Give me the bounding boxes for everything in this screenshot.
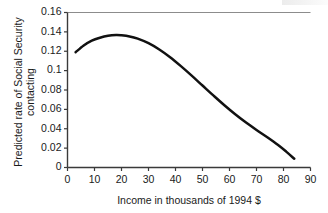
y-tick-label: 0 bbox=[56, 160, 62, 172]
x-tick-label: 70 bbox=[251, 173, 263, 185]
y-tick-label: 0.14 bbox=[41, 25, 62, 37]
y-tick-label: 0.16 bbox=[41, 5, 62, 17]
line-chart: 00.020.040.060.080.10.120.140.16 0102030… bbox=[0, 0, 328, 213]
x-tick-label: 50 bbox=[197, 173, 209, 185]
y-tick-label: 0.02 bbox=[41, 141, 62, 153]
y-axis-title-line1: Predicted rate of Social Security bbox=[12, 17, 24, 167]
y-tick-label: 0.12 bbox=[41, 44, 62, 56]
y-tick-label: 0.04 bbox=[41, 122, 62, 134]
chart-figure: 00.020.040.060.080.10.120.140.16 0102030… bbox=[0, 0, 328, 213]
x-tick-label: 10 bbox=[89, 173, 101, 185]
x-tick-label: 80 bbox=[278, 173, 290, 185]
x-tick-label: 0 bbox=[65, 173, 71, 185]
y-tick-labels: 00.020.040.060.080.10.120.140.16 bbox=[41, 5, 62, 172]
x-tick-label: 20 bbox=[116, 173, 128, 185]
y-tick-label: 0.1 bbox=[47, 63, 62, 75]
x-tick-label: 30 bbox=[143, 173, 155, 185]
x-tick-label: 90 bbox=[305, 173, 317, 185]
x-axis-title: Income in thousands of 1994 $ bbox=[117, 194, 261, 206]
y-axis-title-line2: contacting bbox=[24, 68, 36, 116]
x-tick-label: 40 bbox=[170, 173, 182, 185]
scan-artifact bbox=[282, 0, 328, 5]
x-tick-label: 60 bbox=[224, 173, 236, 185]
y-tick-label: 0.06 bbox=[41, 102, 62, 114]
y-tick-label: 0.08 bbox=[41, 83, 62, 95]
